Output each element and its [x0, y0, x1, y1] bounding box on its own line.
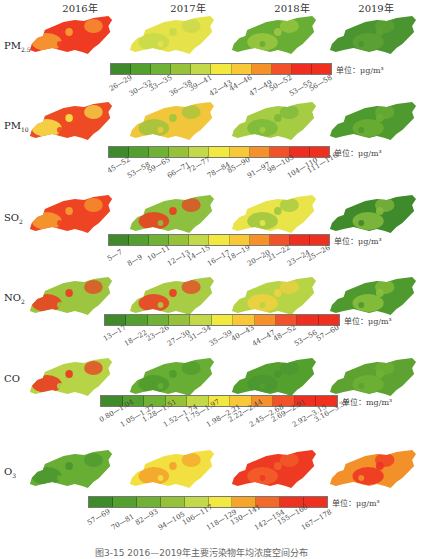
year-label-2016: 2016年 [50, 0, 110, 15]
pollutant-label: SO2 [4, 212, 23, 225]
pollutant-name: O [4, 466, 12, 477]
legend-tick-label: 5—7 [106, 248, 124, 263]
pollutant-name: SO [4, 212, 19, 223]
legend-tick-label: 57—60 [315, 324, 341, 343]
legend-swatch [169, 315, 190, 325]
legend-swatch [250, 147, 270, 157]
map-no2-year-0 [28, 275, 114, 317]
unit-label: 单位：μg/m³ [334, 235, 382, 246]
pollutant-label: O3 [4, 466, 16, 479]
legend-swatch [292, 64, 312, 74]
legend-tick-label: 53—56 [293, 329, 319, 348]
legend-tick-label: 35—39 [208, 329, 234, 348]
map-o3-year-0 [28, 448, 114, 490]
map-co-year-3 [328, 356, 418, 398]
map-co-year-0 [28, 356, 114, 398]
pollutant-name: NO [4, 292, 21, 303]
pollutant-subscript: 3 [12, 472, 16, 479]
map-o3-year-2 [230, 448, 318, 490]
unit-label: 单位：μg/m³ [334, 147, 382, 158]
map-co-year-1 [128, 356, 216, 398]
legend-swatch [111, 64, 131, 74]
unit-label: 单位：mg/m³ [342, 396, 392, 407]
legend-swatch [250, 235, 270, 245]
figure-caption: 图3-15 2016—2019年主要污染物年均浓度空间分布 [95, 546, 308, 559]
map-no2-year-1 [128, 275, 216, 317]
pollutant-subscript: 2 [21, 298, 25, 305]
legend-swatch [297, 315, 318, 325]
color-legend [108, 234, 330, 246]
map-pm10-year-2 [230, 100, 318, 142]
unit-label: 单位：μg/m³ [332, 497, 380, 508]
pollutant-name: PM [4, 120, 21, 131]
year-label-2017: 2017年 [158, 0, 218, 15]
legend-swatch [209, 235, 229, 245]
map-co-year-2 [230, 356, 318, 398]
legend-swatch [89, 497, 113, 507]
legend-swatch [255, 315, 276, 325]
unit-label: 单位：μg/m³ [344, 315, 392, 326]
map-pm2.5-year-1 [128, 14, 216, 56]
legend-tick-label: 8—9 [126, 253, 144, 268]
pollutant-name: CO [4, 373, 20, 384]
legend-swatch [191, 64, 211, 74]
legend-tick-label: 57—69 [86, 508, 112, 527]
pollutant-label: CO [4, 373, 20, 386]
legend-swatch [137, 497, 161, 507]
map-pm2.5-year-3 [328, 14, 418, 56]
unit-label: 单位：μg/m³ [336, 64, 384, 75]
color-legend [104, 314, 340, 326]
map-pm10-year-0 [28, 100, 114, 142]
legend-swatch [232, 64, 252, 74]
map-pm2.5-year-0 [28, 14, 114, 56]
color-legend [108, 146, 330, 158]
pollutant-subscript: 2 [19, 218, 23, 225]
legend-swatch [171, 64, 191, 74]
map-pm2.5-year-2 [230, 14, 318, 56]
map-so2-year-1 [128, 193, 216, 235]
legend-swatch [109, 235, 129, 245]
legend-tick-label: 56—58 [308, 74, 334, 93]
legend-swatch [169, 235, 189, 245]
color-legend [110, 63, 332, 75]
legend-tick-label: 18—22 [123, 329, 149, 348]
legend-swatch [113, 497, 137, 507]
map-pm10-year-3 [328, 100, 418, 142]
legend-swatch [209, 147, 229, 157]
legend-swatch [312, 64, 331, 74]
legend-swatch [129, 147, 149, 157]
map-o3-year-1 [128, 448, 216, 490]
map-pm10-year-1 [128, 100, 216, 142]
map-so2-year-0 [28, 193, 114, 235]
legend-swatch [304, 497, 327, 507]
map-so2-year-2 [230, 193, 318, 235]
pollutant-name: PM [4, 40, 21, 51]
legend-tick-label: 25—26 [306, 244, 332, 263]
map-no2-year-3 [328, 275, 418, 317]
year-label-2018: 2018年 [262, 0, 322, 15]
legend-swatch [169, 147, 189, 157]
legend-swatch [131, 64, 151, 74]
legend-swatch [211, 64, 231, 74]
legend-swatch [129, 235, 149, 245]
pollutant-label: PM10 [4, 120, 29, 133]
legend-tick-label: 70—81 [110, 513, 136, 532]
year-label-2019: 2019年 [346, 0, 406, 15]
legend-swatch [212, 315, 233, 325]
legend-swatch [126, 315, 147, 325]
legend-swatch [161, 497, 185, 507]
pollutant-label: NO2 [4, 292, 25, 305]
map-so2-year-3 [328, 193, 418, 235]
legend-swatch [252, 64, 272, 74]
map-o3-year-3 [328, 448, 418, 490]
legend-swatch [151, 64, 171, 74]
legend-swatch [290, 235, 310, 245]
pollutant-label: PM2.5 [4, 40, 31, 53]
legend-tick-label: 82—93 [134, 508, 160, 527]
map-no2-year-2 [230, 275, 318, 317]
